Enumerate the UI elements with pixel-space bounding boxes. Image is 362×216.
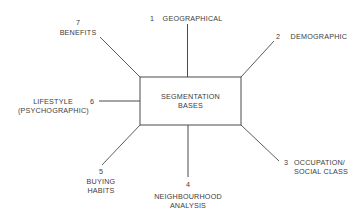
base-2-label: DEMOGRAPHIC bbox=[291, 32, 348, 41]
base-1-label: GEOGRAPHICAL bbox=[163, 14, 223, 23]
base-5-label-line1: BUYING bbox=[78, 177, 124, 186]
base-4-neighbourhood: 4 NEIGHBOURHOOD ANALYSIS bbox=[148, 180, 228, 210]
base-5-label-line2: HABITS bbox=[78, 186, 124, 195]
base-4-label-line1: NEIGHBOURHOOD bbox=[148, 192, 228, 201]
base-2-demographic: 2 DEMOGRAPHIC bbox=[276, 32, 347, 41]
base-7-label: BENEFITS bbox=[58, 28, 98, 37]
base-6-label-line1: LIFESTYLE bbox=[18, 97, 88, 106]
base-1-geographical: 1 GEOGRAPHICAL bbox=[150, 14, 223, 23]
connector-benefits bbox=[100, 37, 140, 77]
connector-demographic bbox=[241, 41, 274, 77]
connector-occupation bbox=[241, 125, 279, 161]
connector-buying-habits bbox=[102, 125, 140, 165]
center-label: SEGMENTATION BASES bbox=[140, 92, 241, 110]
base-3-label: OCCUPATION/ SOCIAL CLASS bbox=[294, 158, 348, 176]
base-4-label-line2: ANALYSIS bbox=[148, 201, 228, 210]
base-4-number: 4 bbox=[148, 180, 228, 189]
base-5-number: 5 bbox=[78, 167, 124, 176]
base-7-number: 7 bbox=[58, 18, 98, 27]
center-label-line1: SEGMENTATION bbox=[140, 92, 241, 101]
base-3-label-line2: SOCIAL CLASS bbox=[294, 167, 348, 176]
base-6-label-line2: (PSYCHOGRAPHIC) bbox=[18, 106, 88, 115]
base-7-benefits: 7 BENEFITS bbox=[58, 18, 98, 37]
base-3-label-line1: OCCUPATION/ bbox=[294, 158, 348, 167]
base-2-number: 2 bbox=[276, 32, 280, 41]
base-5-buying-habits: 5 BUYING HABITS bbox=[78, 167, 124, 195]
base-3-number: 3 bbox=[284, 158, 288, 167]
base-1-number: 1 bbox=[150, 14, 154, 23]
center-label-line2: BASES bbox=[140, 101, 241, 110]
base-6-label: LIFESTYLE (PSYCHOGRAPHIC) bbox=[18, 97, 88, 115]
base-6-number: 6 bbox=[90, 97, 94, 106]
